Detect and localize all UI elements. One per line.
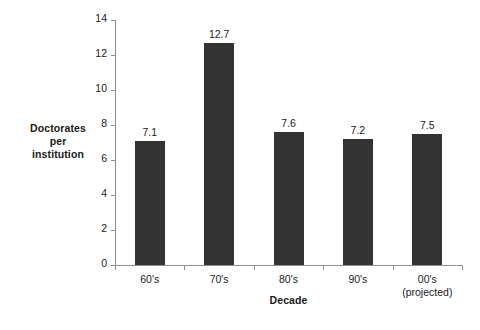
x-axis-tick-mark bbox=[393, 265, 394, 270]
plot-area: 02468101214 7.112.77.67.27.5 60's70's80'… bbox=[115, 20, 462, 265]
x-axis-tick-mark bbox=[323, 265, 324, 270]
y-axis-tick-label: 2 bbox=[67, 222, 107, 234]
category-label: 80's bbox=[249, 273, 329, 286]
bar[interactable] bbox=[204, 43, 234, 265]
x-axis-tick-mark bbox=[184, 265, 185, 270]
bar[interactable] bbox=[412, 134, 442, 265]
bar-value-label: 7.2 bbox=[328, 124, 388, 136]
y-axis-title-line-2: per bbox=[6, 135, 110, 148]
y-axis-tick-label: 14 bbox=[67, 12, 107, 24]
x-axis-title: Decade bbox=[115, 294, 462, 306]
category-label: 90's bbox=[318, 273, 398, 286]
bars-layer: 7.112.77.67.27.5 bbox=[115, 20, 462, 265]
y-axis-tick-label: 6 bbox=[67, 152, 107, 164]
bar[interactable] bbox=[274, 132, 304, 265]
y-axis-tick-label: 8 bbox=[67, 117, 107, 129]
bar[interactable] bbox=[343, 139, 373, 265]
y-axis-tick-label: 4 bbox=[67, 187, 107, 199]
bar-value-label: 7.5 bbox=[397, 119, 457, 131]
category-label: 60's bbox=[110, 273, 190, 286]
x-axis-line bbox=[115, 265, 462, 266]
bar-chart: Doctorates per institution 02468101214 7… bbox=[0, 0, 480, 330]
category-label-line-1: 00's bbox=[387, 273, 467, 286]
bar[interactable] bbox=[135, 141, 165, 265]
category-label-line-1: 90's bbox=[318, 273, 398, 286]
x-axis-tick-mark bbox=[254, 265, 255, 270]
category-label-line-1: 70's bbox=[179, 273, 259, 286]
y-axis-tick-label: 0 bbox=[67, 257, 107, 269]
x-axis-tick-mark bbox=[115, 265, 116, 270]
bar-value-label: 7.6 bbox=[259, 117, 319, 129]
bar-value-label: 7.1 bbox=[120, 126, 180, 138]
x-axis-tick-mark bbox=[462, 265, 463, 270]
y-axis-tick-label: 10 bbox=[67, 82, 107, 94]
category-label-line-1: 80's bbox=[249, 273, 329, 286]
bar-value-label: 12.7 bbox=[189, 28, 249, 40]
y-axis-tick-label: 12 bbox=[67, 47, 107, 59]
category-label: 70's bbox=[179, 273, 259, 286]
category-label-line-1: 60's bbox=[110, 273, 190, 286]
